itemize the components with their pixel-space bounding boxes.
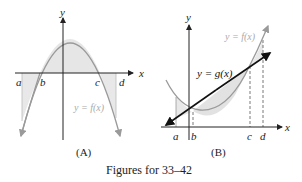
point-a: a: [16, 76, 22, 88]
point-b: b: [40, 76, 46, 88]
shaded-region-b-c: [40, 39, 100, 73]
x-axis-label: x: [138, 67, 144, 79]
panel-label-b: (B): [211, 146, 226, 159]
y-axis-label: y: [185, 11, 191, 23]
panel-a: y x a b c d y = f(x) (A): [15, 6, 144, 159]
point-b: b: [191, 130, 197, 142]
curve-label-f: y = f(x): [224, 31, 256, 43]
panel-b: y x a b c d y = f(x) y = g(x) (B): [161, 11, 290, 159]
point-c: c: [247, 130, 252, 142]
y-axis-label: y: [59, 6, 65, 18]
point-d: d: [260, 130, 266, 142]
line-label-g: y = g(x): [196, 67, 233, 80]
figure-canvas: y x a b c d y = f(x) (A) y x a b c d y =…: [0, 0, 302, 182]
x-axis-label: x: [284, 121, 290, 133]
point-d: d: [119, 76, 125, 88]
panel-label-a: (A): [76, 146, 92, 159]
curve-label-f: y = f(x): [73, 102, 105, 114]
point-c: c: [95, 76, 100, 88]
point-a: a: [173, 130, 179, 142]
figure-caption: Figures for 33–42: [106, 163, 192, 177]
